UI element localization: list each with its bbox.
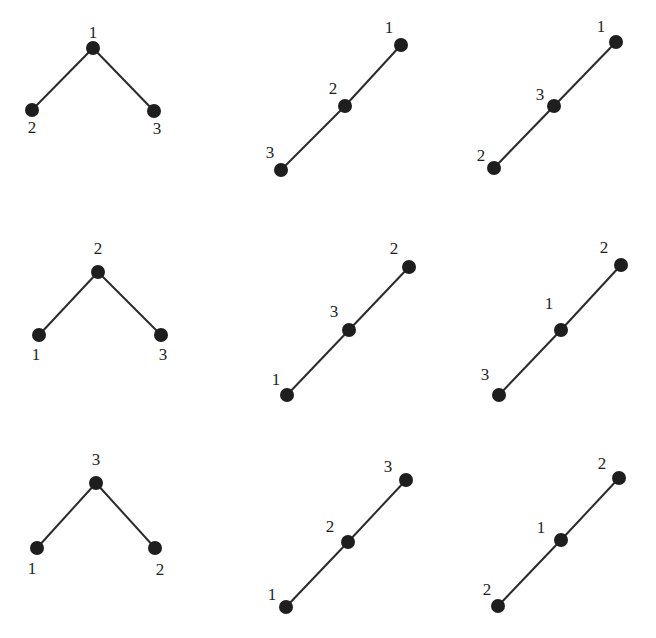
edge [349, 267, 409, 330]
node-label: 1 [597, 17, 606, 36]
node [342, 323, 356, 337]
node-label: 1 [272, 370, 281, 389]
edge [39, 272, 98, 335]
node-label: 1 [537, 518, 546, 537]
node [32, 328, 46, 342]
node-label: 1 [89, 23, 98, 42]
node [394, 38, 408, 52]
node-label: 2 [329, 79, 338, 98]
node-label: 3 [330, 302, 339, 321]
node-label: 1 [32, 345, 41, 364]
graph-r3c3: 212 [483, 454, 626, 613]
node [402, 260, 416, 274]
edge [554, 42, 616, 106]
node-label: 1 [28, 559, 37, 578]
node [30, 541, 44, 555]
node-label: 3 [384, 457, 393, 476]
node [91, 265, 105, 279]
node-label: 1 [385, 18, 394, 37]
edge [287, 330, 349, 395]
node [274, 163, 288, 177]
graph-r2c3: 213 [481, 238, 628, 402]
node [612, 471, 626, 485]
edge [494, 106, 554, 168]
node-label: 1 [545, 294, 554, 313]
node [554, 323, 568, 337]
edge [561, 478, 619, 540]
graph-r1c3: 132 [477, 17, 623, 175]
node-label: 2 [598, 454, 607, 473]
node [609, 35, 623, 49]
node [554, 533, 568, 547]
node-label: 2 [326, 517, 335, 536]
node [341, 535, 355, 549]
edge [32, 48, 93, 110]
edge [37, 483, 96, 548]
node-label: 2 [600, 238, 609, 257]
node-label: 2 [156, 560, 165, 579]
node [25, 103, 39, 117]
node [280, 388, 294, 402]
node-label: 2 [390, 239, 399, 258]
node [399, 473, 413, 487]
node [491, 599, 505, 613]
edge [96, 483, 155, 548]
graph-r3c1: 312 [28, 450, 165, 579]
node-label: 3 [266, 143, 275, 162]
edge [345, 45, 401, 106]
node-label: 2 [483, 580, 492, 599]
node [89, 476, 103, 490]
node-label: 3 [92, 450, 101, 469]
graph-r1c1: 123 [25, 23, 161, 138]
node [154, 328, 168, 342]
node-label: 2 [477, 146, 486, 165]
node [492, 388, 506, 402]
graph-r3c2: 321 [268, 457, 413, 614]
edge [499, 330, 561, 395]
edge [498, 540, 561, 606]
node [147, 104, 161, 118]
edge [98, 272, 161, 335]
edge [348, 480, 406, 542]
edge [93, 48, 154, 111]
node [487, 161, 501, 175]
node-label: 3 [481, 365, 490, 384]
node [279, 600, 293, 614]
node-label: 2 [28, 118, 37, 137]
edge [281, 106, 345, 170]
node [338, 99, 352, 113]
graph-r2c1: 213 [32, 239, 168, 364]
node [86, 41, 100, 55]
node-label: 2 [94, 239, 103, 258]
graph-r2c2: 231 [272, 239, 416, 402]
edge [561, 265, 621, 330]
tree-diagram-grid: 123123132213231213312321212 [0, 0, 656, 638]
node-label: 1 [268, 585, 277, 604]
node-label: 3 [159, 345, 168, 364]
node-label: 3 [153, 119, 162, 138]
edge [286, 542, 348, 607]
node [547, 99, 561, 113]
node-label: 3 [536, 85, 545, 104]
graph-r1c2: 123 [266, 18, 408, 177]
node [148, 541, 162, 555]
node [614, 258, 628, 272]
